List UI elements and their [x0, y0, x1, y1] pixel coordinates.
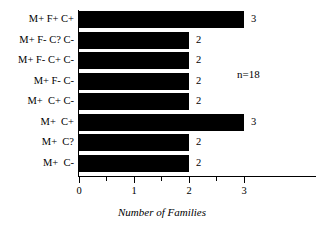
plot-area: 3 2 2 2 2 3 2 2 0 [0, 0, 316, 232]
x-axis-minor-tick [216, 177, 217, 181]
x-axis-title: Number of Families [118, 207, 206, 218]
bar [79, 32, 189, 49]
y-axis-line [78, 10, 79, 177]
bar [79, 114, 244, 131]
sample-size-annotation: n=18 [237, 69, 260, 80]
bar [79, 134, 189, 151]
x-axis-tick [79, 177, 80, 183]
bar [79, 11, 244, 28]
x-axis-tick [134, 177, 135, 183]
x-axis-tick [189, 177, 190, 183]
bar-value-label: 3 [251, 14, 256, 25]
x-axis-tick [244, 177, 245, 183]
bar-value-label: 3 [251, 117, 256, 128]
bar [79, 52, 189, 69]
bar [79, 73, 189, 90]
x-axis-tick-label: 3 [234, 186, 254, 197]
bar-value-label: 2 [196, 76, 201, 87]
bar-value-label: 2 [196, 96, 201, 107]
bar [79, 93, 189, 110]
bar-chart: M+ F+ C+ M+ F- C? C- M+ F- C+ C- M+ F- C… [0, 0, 316, 232]
bar-value-label: 2 [196, 158, 201, 169]
bar-value-label: 2 [196, 137, 201, 148]
x-axis-line [78, 176, 316, 177]
bar-value-label: 2 [196, 35, 201, 46]
bar [79, 155, 189, 172]
bar-value-label: 2 [196, 55, 201, 66]
x-axis-tick-label: 1 [124, 186, 144, 197]
x-axis-minor-tick [106, 177, 107, 181]
x-axis-minor-tick [161, 177, 162, 181]
x-axis-tick-label: 2 [179, 186, 199, 197]
x-axis-tick-label: 0 [69, 186, 89, 197]
